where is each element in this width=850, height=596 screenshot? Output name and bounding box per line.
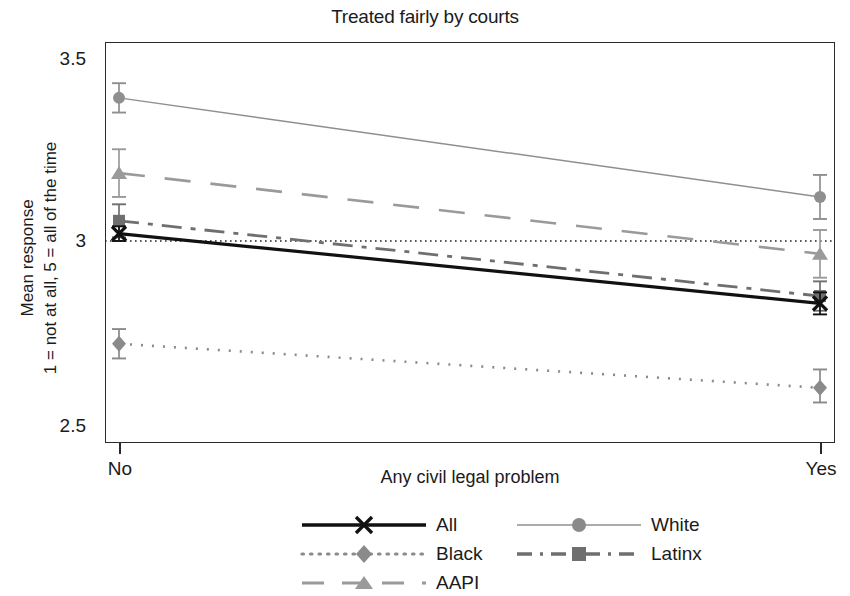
y-tick-label-2-5: 2.5 xyxy=(40,415,86,437)
y-tick-label-3: 3 xyxy=(40,230,86,252)
legend-key-aapi xyxy=(300,570,428,596)
plot-area xyxy=(105,42,835,443)
legend-label-black: Black xyxy=(436,541,482,567)
legend-label-white: White xyxy=(651,512,700,538)
legend-label-aapi: AAPI xyxy=(436,570,479,596)
y-axis-ticks: 3.5 3 2.5 xyxy=(36,0,86,596)
x-tick-mark-no xyxy=(119,443,121,454)
x-tick-mark-yes xyxy=(820,443,822,454)
y-axis-title-line1: Mean response xyxy=(18,199,37,316)
legend-key-all xyxy=(300,512,428,538)
series-black xyxy=(112,329,827,402)
legend: All Black AAPI White xyxy=(300,512,720,594)
series-white xyxy=(112,83,827,219)
legend-key-black xyxy=(300,541,428,567)
figure: Treated fairly by courts Mean response 1… xyxy=(0,0,850,596)
legend-label-all: All xyxy=(436,512,457,538)
legend-label-latinx: Latinx xyxy=(651,541,702,567)
y-tick-label-3-5: 3.5 xyxy=(40,48,86,70)
x-axis-title: Any civil legal problem xyxy=(105,467,835,488)
legend-key-white xyxy=(515,512,643,538)
chart-title: Treated fairly by courts xyxy=(0,6,850,28)
legend-key-latinx xyxy=(515,541,643,567)
series-all xyxy=(112,226,827,314)
